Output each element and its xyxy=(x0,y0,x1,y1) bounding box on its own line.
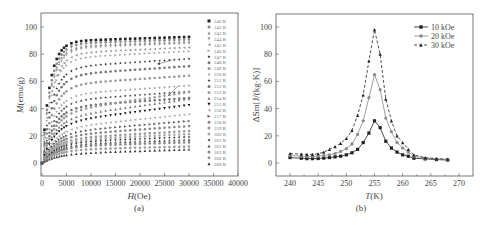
data-point-a xyxy=(129,94,132,97)
data-point-a xyxy=(173,139,176,142)
legend-label-a: 242 K xyxy=(214,25,227,30)
data-point-a xyxy=(85,65,88,68)
data-point-a xyxy=(119,134,122,137)
data-point-a xyxy=(51,142,54,145)
data-point-a xyxy=(85,133,88,136)
data-point-a xyxy=(183,113,186,116)
data-point-a xyxy=(139,104,142,107)
data-point-a xyxy=(95,64,98,67)
data-point-a xyxy=(109,90,112,93)
legend-label-a: 268 K xyxy=(214,162,227,167)
data-point-a xyxy=(153,139,156,142)
data-point-a xyxy=(75,131,78,134)
data-point-a xyxy=(90,151,93,154)
data-point-a xyxy=(173,51,176,54)
data-point-a xyxy=(114,89,117,92)
data-point-a xyxy=(48,128,51,131)
data-point-a xyxy=(46,128,49,131)
data-point-a xyxy=(178,141,181,144)
data-point-a xyxy=(48,87,51,90)
data-point-a xyxy=(75,135,78,138)
data-point-a xyxy=(178,75,181,78)
data-point-b xyxy=(367,131,370,134)
data-point-a xyxy=(149,128,152,131)
data-point-a xyxy=(55,110,58,113)
data-point-a xyxy=(139,44,142,47)
panel-label-b: (b) xyxy=(356,203,367,213)
data-point-a xyxy=(100,142,103,145)
data-point-a xyxy=(58,155,61,158)
data-point-a xyxy=(149,142,152,145)
legend-label-a: 259 K xyxy=(214,126,227,131)
data-point-a xyxy=(104,139,107,142)
data-point-b xyxy=(395,134,398,137)
legend-marker-a xyxy=(208,43,211,46)
legend-marker-a xyxy=(208,37,211,40)
data-point-a xyxy=(124,133,127,136)
data-point-a xyxy=(109,54,112,57)
data-point-b xyxy=(350,142,353,145)
data-point-a xyxy=(70,123,73,126)
data-point-a xyxy=(85,105,88,108)
data-point-a xyxy=(139,68,142,71)
data-point-a xyxy=(124,120,127,123)
data-point-a xyxy=(65,120,68,123)
data-point-a xyxy=(90,142,93,145)
x-tick-label-a: 40000 xyxy=(228,179,248,188)
data-point-a xyxy=(95,51,98,54)
data-point-a xyxy=(153,67,156,70)
data-point-a xyxy=(129,129,132,132)
data-point-a xyxy=(75,46,78,49)
x-axis-title-b-unit: (K) xyxy=(370,191,383,201)
data-point-a xyxy=(109,103,112,106)
data-point-a xyxy=(188,148,191,151)
data-point-a xyxy=(85,92,88,95)
data-point-b xyxy=(390,146,393,149)
data-point-a xyxy=(65,51,68,54)
data-point-a xyxy=(188,65,191,68)
legend-label-a: 247 K xyxy=(214,55,227,60)
data-point-b xyxy=(401,141,404,144)
data-point-b xyxy=(401,153,404,156)
data-point-a xyxy=(148,60,151,63)
data-point-a xyxy=(178,145,181,148)
data-point-a xyxy=(188,36,191,39)
data-point-b xyxy=(395,141,398,144)
legend-label-b: 20 kOe xyxy=(431,32,455,41)
data-point-a xyxy=(168,134,171,137)
data-point-a xyxy=(80,145,83,148)
data-point-a xyxy=(129,78,132,81)
data-point-a xyxy=(114,130,117,133)
x-tick-label-b: 245 xyxy=(312,179,324,188)
data-point-b xyxy=(356,133,359,136)
data-point-a xyxy=(114,150,117,153)
data-point-a xyxy=(178,148,181,151)
y-tick-label-a: 40 xyxy=(29,105,37,114)
data-point-a xyxy=(139,98,142,101)
data-point-a xyxy=(70,112,73,115)
data-point-a xyxy=(158,142,161,145)
data-point-a xyxy=(58,57,61,60)
data-point-a xyxy=(168,98,171,101)
data-point-a xyxy=(188,138,191,141)
data-point-a xyxy=(53,124,56,127)
data-point-a xyxy=(114,54,117,57)
data-point-a xyxy=(158,67,161,70)
data-point-a xyxy=(139,118,142,121)
data-point-b xyxy=(339,142,342,145)
data-point-a xyxy=(139,53,142,56)
data-point-a xyxy=(168,106,171,109)
legend-marker-a xyxy=(208,67,211,70)
data-point-b xyxy=(384,140,387,143)
data-point-a xyxy=(100,91,103,94)
legend-marker-a xyxy=(208,85,211,88)
data-point-a xyxy=(95,39,98,42)
data-point-a xyxy=(90,92,93,95)
data-point-a xyxy=(80,53,83,56)
y-axis-title-a-unit: (emu/g) xyxy=(15,77,25,106)
data-point-a xyxy=(153,108,156,111)
data-point-a xyxy=(114,62,117,65)
panel-a: 0500010000150002000025000300003500040000… xyxy=(15,13,248,213)
data-point-a xyxy=(63,57,66,60)
data-points-a xyxy=(41,36,191,165)
